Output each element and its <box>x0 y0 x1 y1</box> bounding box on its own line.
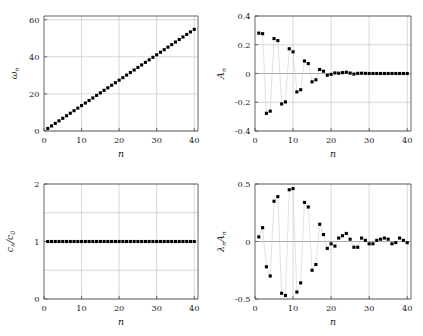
data-point <box>148 240 151 243</box>
svg-text:0: 0 <box>252 135 257 145</box>
y-tick-labels: 0204060 <box>29 15 39 136</box>
data-point <box>314 78 317 81</box>
data-point <box>144 61 147 64</box>
data-point <box>269 274 272 277</box>
data-point <box>181 240 184 243</box>
data-point <box>390 72 393 75</box>
y-axis-label: ωn <box>8 68 20 80</box>
svg-text:40: 40 <box>189 303 199 313</box>
data-point <box>91 96 94 99</box>
data-point <box>54 240 57 243</box>
svg-text:0: 0 <box>41 303 46 313</box>
data-point <box>174 240 177 243</box>
data-point <box>185 33 188 36</box>
data-point <box>345 232 348 235</box>
svg-text:20: 20 <box>114 303 124 313</box>
data-point <box>360 72 363 75</box>
svg-text:30: 30 <box>364 303 374 313</box>
svg-text:10: 10 <box>288 303 298 313</box>
data-point <box>333 245 336 248</box>
data-point <box>265 265 268 268</box>
svg-text:40: 40 <box>402 135 412 145</box>
data-point <box>307 205 310 208</box>
data-point <box>80 240 83 243</box>
svg-text:20: 20 <box>326 303 336 313</box>
data-point <box>65 114 68 117</box>
data-point <box>379 238 382 241</box>
svg-text:-0.2: -0.2 <box>235 97 251 107</box>
data-point <box>322 233 325 236</box>
data-point <box>257 32 260 35</box>
y-tick-labels: 012 <box>34 179 39 304</box>
data-point <box>341 71 344 74</box>
data-point <box>341 234 344 237</box>
data-point <box>166 240 169 243</box>
data-point <box>349 238 352 241</box>
data-point <box>80 104 83 107</box>
data-point <box>159 51 162 54</box>
data-point <box>163 48 166 51</box>
data-point <box>398 72 401 75</box>
data-point <box>368 242 371 245</box>
data-point <box>185 240 188 243</box>
data-point <box>333 71 336 74</box>
data-point <box>136 240 139 243</box>
data-point <box>91 240 94 243</box>
data-point <box>144 240 147 243</box>
svg-text:0: 0 <box>41 135 46 145</box>
data-point <box>121 76 124 79</box>
data-point <box>356 246 359 249</box>
data-point <box>178 38 181 41</box>
data-point <box>193 28 196 31</box>
panel-a-n-svg: 010203040-0.4-0.200.20.4nAn <box>211 0 423 168</box>
data-point <box>295 90 298 93</box>
data-point <box>57 240 60 243</box>
data-point <box>103 89 106 92</box>
data-point <box>166 46 169 49</box>
svg-text:10: 10 <box>76 135 86 145</box>
data-point <box>288 188 291 191</box>
y-axis-label: λnAn <box>215 231 227 253</box>
data-point <box>368 72 371 75</box>
data-point <box>390 242 393 245</box>
data-point <box>292 50 295 53</box>
data-point <box>295 291 298 294</box>
data-point <box>46 240 49 243</box>
svg-text:0.4: 0.4 <box>237 11 250 21</box>
data-point <box>326 74 329 77</box>
x-axis-label: n <box>118 148 124 159</box>
svg-text:0: 0 <box>252 303 257 313</box>
data-point <box>189 240 192 243</box>
data-point <box>311 269 314 272</box>
data-point <box>387 72 390 75</box>
data-point <box>314 263 317 266</box>
svg-text:40: 40 <box>402 303 412 313</box>
data-point <box>261 226 264 229</box>
x-axis-label: n <box>330 316 336 327</box>
data-point <box>95 94 98 97</box>
data-point <box>73 240 76 243</box>
data-point <box>129 240 132 243</box>
data-point <box>155 53 158 56</box>
data-point <box>76 240 79 243</box>
data-point <box>379 72 382 75</box>
data-point <box>69 112 72 115</box>
svg-text:0: 0 <box>245 69 250 79</box>
data-point <box>57 119 60 122</box>
data-point <box>345 71 348 74</box>
data-points <box>46 28 196 130</box>
data-point <box>311 80 314 83</box>
data-point <box>261 32 264 35</box>
gridlines <box>44 16 198 131</box>
svg-text:0.5: 0.5 <box>237 179 250 189</box>
svg-text:30: 30 <box>364 135 374 145</box>
panel-lambda-a-n: 010203040-0.500.5nλnAn <box>211 168 423 336</box>
data-point <box>103 240 106 243</box>
axes <box>44 16 198 131</box>
data-point <box>292 187 295 190</box>
data-point <box>69 240 72 243</box>
x-axis-label: n <box>330 148 336 159</box>
data-point <box>163 240 166 243</box>
svg-text:60: 60 <box>29 15 39 25</box>
data-point <box>50 240 53 243</box>
